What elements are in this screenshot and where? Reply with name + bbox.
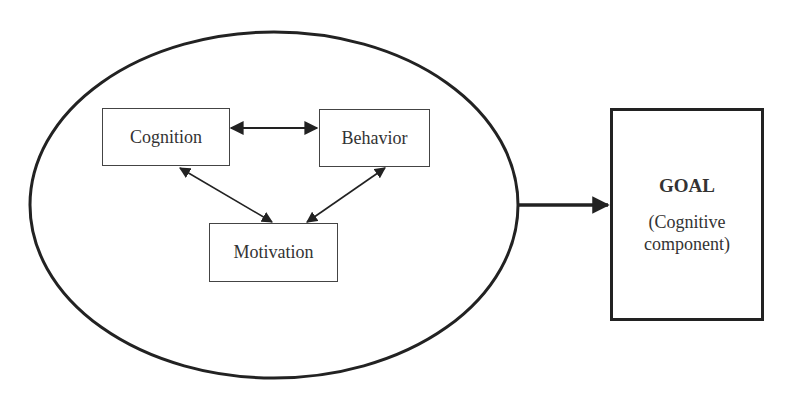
node-behavior-label: Behavior — [342, 128, 408, 149]
node-behavior: Behavior — [319, 109, 430, 167]
goal-box: GOAL (Cognitive component) — [610, 108, 764, 321]
node-cognition: Cognition — [102, 108, 230, 166]
system-ellipse — [30, 32, 518, 378]
goal-subtitle-line2: component) — [644, 233, 730, 255]
edge-behavior-motivation — [307, 168, 385, 222]
goal-subtitle-line1: (Cognitive — [649, 211, 726, 233]
node-cognition-label: Cognition — [130, 127, 202, 148]
node-motivation-label: Motivation — [234, 242, 314, 263]
node-motivation: Motivation — [209, 223, 338, 282]
goal-title: GOAL — [659, 175, 715, 197]
edge-cognition-motivation — [180, 168, 272, 222]
